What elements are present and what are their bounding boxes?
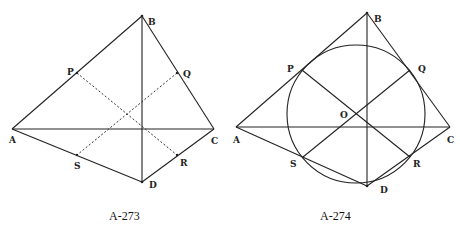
point-b-dot [141, 15, 144, 18]
label-r: R [180, 158, 188, 168]
label-b: B [374, 14, 382, 24]
segment-cd [367, 127, 450, 186]
point-b-dot [366, 12, 369, 15]
caption-a274: A-274 [320, 209, 351, 223]
point-d-dot [366, 185, 369, 188]
point-r-dot [176, 154, 178, 156]
label-s: S [74, 161, 81, 171]
label-d: D [149, 180, 157, 190]
label-q: Q [418, 64, 426, 74]
label-r: R [413, 159, 421, 169]
point-q-dot [176, 72, 178, 74]
label-s: S [290, 159, 297, 169]
point-s-dot [76, 154, 78, 156]
label-p: P [67, 67, 74, 77]
label-c: C [447, 135, 454, 145]
label-q: Q [183, 69, 191, 79]
label-c: C [211, 136, 218, 146]
label-p: P [287, 64, 294, 74]
label-b: B [148, 17, 156, 27]
label-a: A [8, 135, 17, 145]
segment-bc [367, 13, 450, 127]
caption-a273: A-273 [109, 209, 140, 223]
figure-a274: B A C D P Q S R O A-274 [232, 12, 454, 223]
segment-da [236, 127, 367, 186]
label-d: D [380, 185, 388, 195]
point-d-dot [141, 181, 144, 184]
label-a: A [232, 135, 241, 145]
geometry-figures: B A C D P Q S R A-273 B A C D P Q S R O … [0, 0, 460, 227]
label-o: O [340, 110, 348, 120]
point-p-dot [76, 72, 78, 74]
figure-a273: B A C D P Q S R A-273 [8, 15, 218, 223]
